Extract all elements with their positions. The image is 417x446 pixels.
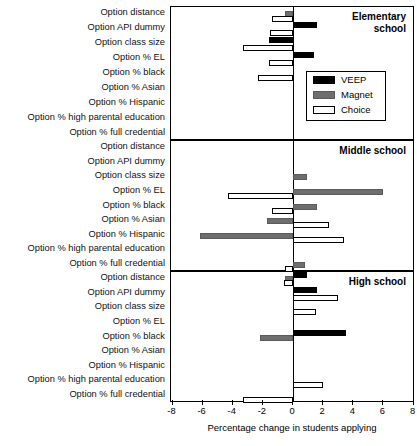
bar-choice — [284, 280, 293, 286]
panel-title: Middle school — [339, 145, 406, 157]
bar-choice — [228, 193, 293, 199]
y-axis-label: Option % Asian — [101, 83, 165, 92]
y-axis-label: Option distance — [100, 8, 165, 17]
bar-veep — [293, 22, 317, 28]
y-axis-label: Option % Asian — [101, 215, 165, 224]
x-axis-tick-label: -2 — [258, 406, 266, 416]
x-axis-tick — [262, 400, 263, 405]
y-axis-label: Option % full credential — [69, 128, 165, 137]
panel-elementary-school: ElementaryschoolVEEPMagnetChoice — [170, 6, 414, 140]
y-axis-label: Option % high parental education — [28, 244, 165, 253]
bar-veep — [293, 52, 314, 58]
x-axis-tick-label: -8 — [167, 406, 175, 416]
x-axis-tick-label: 4 — [350, 406, 355, 416]
bar-choice — [293, 237, 344, 243]
bar-choice — [269, 60, 293, 66]
y-axis-label: Option % EL — [113, 186, 165, 195]
panel-middle-school: Middle school — [170, 140, 414, 271]
legend-item-veep: VEEP — [307, 72, 385, 87]
y-axis-label: Option class size — [95, 171, 165, 180]
x-axis-tick-label: -4 — [228, 406, 236, 416]
x-axis-tick-label: 2 — [320, 406, 325, 416]
y-axis-label: Option API dummy — [87, 23, 165, 32]
bar-magnet — [200, 233, 293, 239]
y-axis-label: Option % black — [102, 201, 165, 210]
y-axis-label: Option % high parental education — [28, 113, 165, 122]
y-axis-label: Option distance — [100, 273, 165, 282]
bar-choice — [293, 382, 323, 388]
x-axis-tick-label: 0 — [289, 406, 294, 416]
bar-choice — [272, 208, 293, 214]
y-axis-label: Option % full credential — [69, 259, 165, 268]
x-axis-tick — [232, 400, 233, 405]
x-axis-tick — [202, 400, 203, 405]
y-axis-label: Option % full credential — [69, 390, 165, 399]
y-axis-label: Option % high parental education — [28, 375, 165, 384]
legend-label: VEEP — [341, 75, 366, 85]
bar-magnet — [293, 174, 307, 180]
x-axis-tick-label: -6 — [197, 406, 205, 416]
bar-veep — [293, 330, 346, 336]
bar-magnet — [293, 204, 317, 210]
y-axis-label: Option % EL — [113, 317, 165, 326]
bar-magnet — [293, 189, 383, 195]
legend-item-choice: Choice — [307, 102, 385, 117]
panel-high-school: High school — [170, 271, 414, 402]
bar-choice — [293, 222, 329, 228]
y-axis-label: Option % Hispanic — [89, 98, 165, 107]
x-axis-tick — [292, 400, 293, 405]
y-axis-label: Option class size — [95, 302, 165, 311]
y-axis-label: Option API dummy — [87, 288, 165, 297]
x-axis-tick-label: 8 — [410, 406, 415, 416]
y-axis-label: Option % EL — [113, 53, 165, 62]
legend-swatch-choice — [313, 106, 335, 114]
bar-veep — [269, 37, 293, 43]
x-axis-title: Percentage change in students applying — [170, 422, 414, 433]
bar-choice — [270, 30, 293, 36]
x-axis-tick — [172, 400, 173, 405]
bar-choice — [258, 75, 293, 81]
chart-figure: Option distanceOption API dummyOption cl… — [0, 0, 417, 446]
x-axis: Percentage change in students applying -… — [170, 400, 414, 446]
bar-veep — [293, 272, 307, 278]
bar-magnet — [267, 218, 293, 224]
bar-magnet — [293, 262, 305, 268]
x-axis-tick — [382, 400, 383, 405]
y-axis-label: Option % Hispanic — [89, 361, 165, 370]
x-axis-tick-label: 6 — [380, 406, 385, 416]
legend-label: Magnet — [341, 90, 373, 100]
panel-title: Elementaryschool — [352, 11, 406, 34]
legend-item-magnet: Magnet — [307, 87, 385, 102]
bar-choice — [293, 295, 338, 301]
y-axis-label: Option class size — [95, 38, 165, 47]
legend-label: Choice — [341, 105, 371, 115]
panel-title: High school — [349, 276, 406, 288]
legend-swatch-magnet — [313, 91, 335, 99]
y-axis-label: Option % Hispanic — [89, 230, 165, 239]
y-axis-label: Option % Asian — [101, 346, 165, 355]
bar-choice — [243, 45, 293, 51]
x-axis-tick — [413, 400, 414, 405]
y-axis-label: Option % black — [102, 332, 165, 341]
y-axis-label: Option distance — [100, 142, 165, 151]
bar-choice — [293, 309, 316, 315]
legend-swatch-veep — [313, 76, 335, 84]
bar-veep — [293, 287, 317, 293]
y-axis-label: Option API dummy — [87, 157, 165, 166]
legend: VEEPMagnetChoice — [306, 71, 386, 121]
x-axis-tick — [352, 400, 353, 405]
y-axis-label: Option % black — [102, 68, 165, 77]
bar-magnet — [260, 335, 293, 341]
bar-choice — [272, 16, 293, 22]
x-axis-tick — [322, 400, 323, 405]
